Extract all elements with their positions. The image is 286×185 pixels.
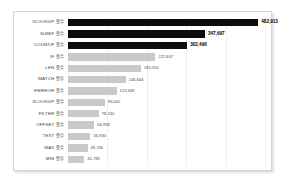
- bar-row: IF 함수221,847: [68, 51, 265, 62]
- bar-row: MAX 함수49,746: [68, 142, 265, 153]
- chart-frame: VLOOKUP 함수482,913SUMIF 함수347,697COUNTIF …: [13, 11, 272, 171]
- bar-value-label: 146,644: [129, 78, 144, 82]
- bar-wrapper: 221,847: [68, 53, 173, 60]
- bar-value-label: 66,939: [97, 123, 110, 127]
- category-label: OFFSET 함수: [14, 123, 64, 127]
- bar-value-label: 221,847: [158, 55, 173, 59]
- bar-wrapper: 66,939: [68, 121, 110, 128]
- bar-value-label: 93,045: [108, 100, 121, 104]
- category-label: TEXT 함수: [14, 134, 64, 138]
- bar[interactable]: [68, 121, 94, 128]
- bar-value-label: 78,240: [102, 112, 115, 116]
- category-label: COUNTIF 함수: [14, 43, 64, 47]
- bar-row: COUNTIF 함수302,496: [68, 40, 265, 51]
- bar[interactable]: [68, 19, 258, 26]
- bar[interactable]: [68, 110, 99, 117]
- bar-value-label: 302,496: [190, 43, 207, 48]
- bar-wrapper: 146,644: [68, 76, 144, 83]
- bar[interactable]: [68, 53, 155, 60]
- bar-wrapper: 302,496: [68, 42, 207, 49]
- bar-wrapper: 49,746: [68, 144, 103, 151]
- bar-row: SUMIF 함수347,697: [68, 28, 265, 39]
- bar[interactable]: [68, 87, 117, 94]
- bar-wrapper: 56,930: [68, 133, 106, 140]
- category-label: XLOOKUP 함수: [14, 100, 64, 104]
- bar[interactable]: [68, 156, 84, 163]
- bar-value-label: 49,746: [91, 146, 104, 150]
- bar[interactable]: [68, 99, 105, 106]
- bar-row: TEXT 함수56,930: [68, 131, 265, 142]
- bar[interactable]: [68, 133, 90, 140]
- bar-row: LEN 함수185,555: [68, 63, 265, 74]
- bar-wrapper: 347,697: [68, 30, 225, 37]
- bar-value-label: 41,782: [87, 157, 100, 161]
- bar-row: OFFSET 함수66,939: [68, 119, 265, 130]
- category-label: FILTER 함수: [14, 112, 64, 116]
- bar-wrapper: 78,240: [68, 110, 114, 117]
- gridline-500000: [265, 17, 266, 165]
- category-label: MIN 함수: [14, 157, 64, 161]
- bar-value-label: 185,555: [144, 66, 159, 70]
- bar[interactable]: [68, 144, 88, 151]
- bar-value-label: 123,349: [120, 89, 135, 93]
- category-label: IF 함수: [14, 55, 64, 59]
- category-label: IFERROR 함수: [14, 89, 64, 93]
- bar-wrapper: 482,913: [68, 19, 278, 26]
- bar-row: XLOOKUP 함수93,045: [68, 97, 265, 108]
- category-label: LEN 함수: [14, 66, 64, 70]
- bar-row: MIN 함수41,782: [68, 154, 265, 165]
- bar[interactable]: [68, 42, 187, 49]
- bar-row: FILTER 함수78,240: [68, 108, 265, 119]
- bar[interactable]: [68, 30, 205, 37]
- bar-wrapper: 123,349: [68, 87, 134, 94]
- bar-value-label: 56,930: [93, 134, 106, 138]
- bar-row: VLOOKUP 함수482,913: [68, 17, 265, 28]
- bar-value-label: 482,913: [261, 20, 278, 25]
- category-label: SUMIF 함수: [14, 32, 64, 36]
- bar-wrapper: 93,045: [68, 99, 120, 106]
- category-label: MATCH 함수: [14, 77, 64, 81]
- category-label: VLOOKUP 함수: [14, 20, 64, 24]
- plot-area: VLOOKUP 함수482,913SUMIF 함수347,697COUNTIF …: [68, 17, 265, 165]
- bar-rows: VLOOKUP 함수482,913SUMIF 함수347,697COUNTIF …: [68, 17, 265, 165]
- bar-wrapper: 41,782: [68, 156, 100, 163]
- bar-row: IFERROR 함수123,349: [68, 85, 265, 96]
- bar-row: MATCH 함수146,644: [68, 74, 265, 85]
- category-label: MAX 함수: [14, 146, 64, 150]
- bar-wrapper: 185,555: [68, 65, 159, 72]
- bar-value-label: 347,697: [208, 32, 225, 37]
- bar[interactable]: [68, 65, 141, 72]
- bar[interactable]: [68, 76, 126, 83]
